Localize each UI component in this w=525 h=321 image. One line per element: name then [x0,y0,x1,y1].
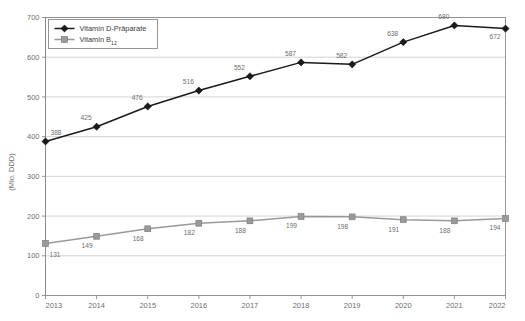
data-point-value-label: 168 [133,235,144,242]
x-tick-label: 2013 [46,301,63,310]
data-point-marker[interactable] [247,218,253,224]
data-point-marker[interactable] [145,226,151,232]
x-tick-label: 2018 [293,301,310,310]
y-axis-title-text: (Mio. DDD) [7,153,16,191]
data-point-value-label: 587 [285,50,296,57]
y-tick-label: 100 [27,251,40,260]
y-tick-label: 200 [27,212,40,221]
data-point-value-label: 191 [388,226,399,233]
data-point-marker[interactable] [196,220,202,226]
x-tick-label: 2016 [190,301,207,310]
x-tick-label: 2017 [242,301,259,310]
data-point-value-label: 638 [387,30,398,37]
data-point-marker[interactable] [43,241,49,247]
y-tick-label: 400 [27,132,40,141]
data-point-marker[interactable] [298,214,304,220]
y-tick-label: 600 [27,53,40,62]
data-point-marker[interactable] [451,218,457,224]
legend-label[interactable]: Vitamin D-Präparate [80,24,147,33]
data-point-marker[interactable] [503,216,509,222]
x-tick-label: 2014 [88,301,105,310]
data-point-marker[interactable] [349,214,355,220]
x-tick-label: 2020 [395,301,412,310]
data-point-value-label: 194 [489,224,500,231]
data-point-value-label: 198 [337,223,348,230]
legend-marker [62,37,68,43]
data-point-value-label: 188 [235,227,246,234]
data-point-value-label: 552 [234,64,245,71]
chart-canvas: 0100200300400500600700 20132014201520162… [0,0,525,321]
data-point-value-label: 425 [81,114,92,121]
data-point-value-label: 516 [183,78,194,85]
chart-legend[interactable]: Vitamin D-PräparateVitamin B12 [49,20,158,49]
y-tick-label: 300 [27,172,40,181]
x-tick-label: 2015 [139,301,156,310]
x-tick-label: 2022 [489,301,506,310]
data-point-value-label: 680 [438,13,449,20]
legend-label-subscript: 12 [111,40,117,46]
data-point-value-label: 149 [82,242,93,249]
y-tick-label: 0 [35,291,39,300]
line-chart: 0100200300400500600700 20132014201520162… [0,0,525,321]
data-point-value-label: 131 [50,251,61,258]
data-point-value-label: 388 [51,129,62,136]
data-point-value-label: 672 [489,33,500,40]
x-tick-label: 2021 [446,301,463,310]
y-tick-label: 500 [27,93,40,102]
x-tick-label: 2019 [344,301,361,310]
data-point-value-label: 476 [132,94,143,101]
data-point-marker[interactable] [94,233,100,239]
data-point-value-label: 188 [439,227,450,234]
data-point-marker[interactable] [400,217,406,223]
y-tick-label: 700 [27,13,40,22]
y-axis-title: (Mio. DDD) [7,153,16,191]
data-point-value-label: 182 [184,229,195,236]
data-point-value-label: 199 [286,222,297,229]
data-point-value-label: 582 [336,52,347,59]
